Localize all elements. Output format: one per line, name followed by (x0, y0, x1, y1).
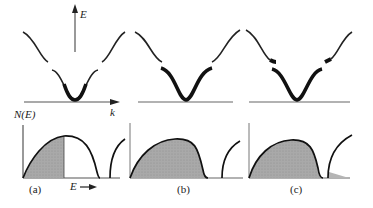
k-axis-arrowhead-icon (110, 99, 120, 105)
energy-arrow-label: E (70, 180, 77, 192)
energy-axis-label: E (80, 8, 87, 20)
panel-c-dispersion (246, 30, 352, 102)
panel-a-dos (23, 125, 125, 178)
panel-b-dispersion (135, 30, 240, 102)
panel-a-dispersion (23, 4, 125, 105)
panel-a-caption: (a) (29, 183, 41, 195)
dos-axis-label: N(E) (14, 108, 35, 120)
k-axis-label: k (110, 106, 115, 118)
panel-b-dos (130, 123, 243, 178)
band-structure-diagram (0, 0, 373, 208)
energy-arrow-icon (89, 184, 97, 190)
panel-c-dos (249, 123, 352, 178)
panel-b-caption: (b) (177, 183, 190, 195)
energy-axis-arrowhead-icon (72, 4, 78, 13)
panel-c-caption: (c) (290, 183, 302, 195)
